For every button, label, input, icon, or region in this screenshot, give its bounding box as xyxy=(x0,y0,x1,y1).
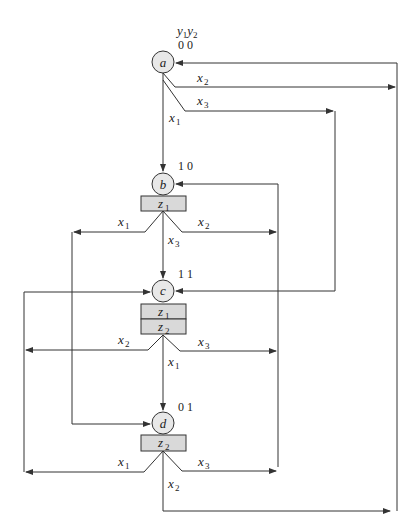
svg-text:3: 3 xyxy=(205,341,210,351)
state-diagram: y1y2 a 0 0 x 2 x 2 x 3 x 1 b 1 0 z 1 xyxy=(0,0,419,530)
svg-text:2: 2 xyxy=(204,77,209,87)
svg-text:z: z xyxy=(157,435,163,450)
transition-d-to-a: x 2 xyxy=(163,63,397,511)
state-d-code: 0 1 xyxy=(178,400,193,414)
svg-text:d: d xyxy=(160,416,167,431)
svg-text:x: x xyxy=(196,70,203,85)
state-c: c 1 1 z 1 z 2 xyxy=(141,267,193,336)
transition-a-to-c: x 3 xyxy=(163,80,335,291)
transition-c-to-d: x 1 xyxy=(163,335,180,410)
state-b-code: 1 0 xyxy=(178,159,193,173)
svg-text:2: 2 xyxy=(165,442,170,452)
svg-text:x: x xyxy=(197,214,204,229)
svg-text:x: x xyxy=(117,454,124,469)
state-d: d 0 1 z 2 xyxy=(141,400,193,452)
svg-text:x: x xyxy=(196,93,203,108)
svg-text:1: 1 xyxy=(165,203,170,213)
output-box-z2 xyxy=(141,319,186,334)
transition-d-to-c: x 1 xyxy=(26,451,163,472)
output-box-z2 xyxy=(141,435,186,451)
transition-c-to-b: x 3 xyxy=(163,334,276,351)
svg-text:c: c xyxy=(160,283,166,298)
svg-text:1: 1 xyxy=(125,461,130,471)
svg-text:x: x xyxy=(167,232,174,247)
svg-text:3: 3 xyxy=(204,100,209,110)
svg-text:x: x xyxy=(117,332,124,347)
state-b: b 1 0 z 1 xyxy=(141,159,193,213)
svg-text:x: x xyxy=(197,454,204,469)
state-a: a 0 0 xyxy=(152,38,193,73)
svg-text:z: z xyxy=(157,319,163,334)
svg-text:2: 2 xyxy=(125,339,130,349)
svg-text:2: 2 xyxy=(165,326,170,336)
svg-text:z: z xyxy=(157,304,163,319)
svg-text:x: x xyxy=(168,110,175,125)
svg-text:1: 1 xyxy=(175,361,180,371)
svg-text:3: 3 xyxy=(175,239,180,249)
svg-text:1: 1 xyxy=(176,117,181,127)
svg-text:2: 2 xyxy=(205,221,210,231)
state-a-code: 0 0 xyxy=(178,38,193,52)
svg-text:x: x xyxy=(167,476,174,491)
svg-text:1: 1 xyxy=(125,221,130,231)
svg-text:3: 3 xyxy=(205,461,210,471)
transition-a-to-b: x 1 xyxy=(163,73,181,171)
svg-text:b: b xyxy=(160,177,167,192)
feedback-to-c xyxy=(24,292,150,472)
svg-text:z: z xyxy=(157,196,163,211)
transition-a-x2: x 2 xyxy=(163,70,395,87)
svg-text:x: x xyxy=(197,334,204,349)
transition-d-to-b: x 3 xyxy=(163,451,276,471)
output-box-z1 xyxy=(141,196,186,211)
svg-text:x: x xyxy=(167,354,174,369)
svg-text:x: x xyxy=(117,214,124,229)
svg-text:2: 2 xyxy=(175,483,180,493)
output-box-z1 xyxy=(141,304,186,319)
svg-text:a: a xyxy=(160,55,167,70)
state-c-code: 1 1 xyxy=(178,267,193,281)
transition-b-x2: x 2 xyxy=(163,211,276,232)
transition-c-x2: x 2 xyxy=(26,332,163,350)
feedback-to-b xyxy=(176,184,278,467)
